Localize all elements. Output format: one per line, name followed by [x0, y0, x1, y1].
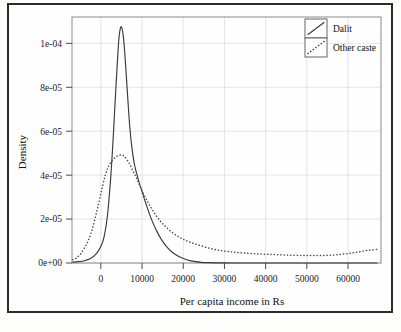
y-tick-label: 8e-05	[40, 83, 62, 93]
x-tick-label: 0	[98, 274, 103, 284]
legend-label: Other caste	[333, 43, 376, 53]
x-tick-label: 10000	[130, 274, 154, 284]
series-line-dalit	[73, 27, 377, 263]
density-plot-svg: 0e+002e-054e-056e-058e-051e-040100002000…	[0, 0, 401, 332]
series-line-other-caste	[73, 155, 377, 260]
y-tick-label: 0e+00	[38, 258, 62, 268]
x-tick-label: 40000	[254, 274, 278, 284]
x-tick-label: 50000	[295, 274, 319, 284]
y-tick-label: 2e-05	[40, 214, 62, 224]
series-paths	[73, 27, 377, 263]
y-axis-title: Density	[16, 134, 28, 169]
x-tick-label: 60000	[336, 274, 360, 284]
tick-labels: 0e+002e-054e-056e-058e-051e-040100002000…	[38, 39, 360, 284]
y-tick-label: 6e-05	[40, 127, 62, 137]
x-axis-title: Per capita income in Rs	[180, 295, 284, 307]
legend-label: Dalit	[333, 24, 352, 34]
y-tick-label: 4e-05	[40, 171, 62, 181]
axis-ticks	[66, 43, 348, 269]
x-tick-label: 20000	[171, 274, 195, 284]
y-tick-label: 1e-04	[40, 39, 62, 49]
chart-figure: 0e+002e-054e-056e-058e-051e-040100002000…	[0, 0, 401, 332]
x-tick-label: 30000	[213, 274, 237, 284]
legend[interactable]: DalitOther caste	[305, 19, 376, 57]
